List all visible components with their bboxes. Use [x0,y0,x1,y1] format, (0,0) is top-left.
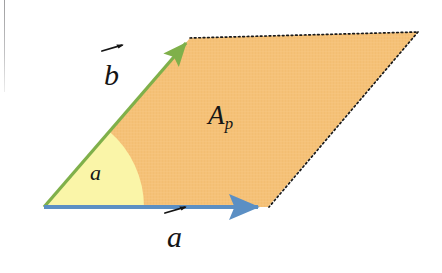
figure-canvas [0,0,442,273]
vector-a-letter: a [167,220,182,253]
vector-b-glyph-stack: b [104,60,119,90]
vector-parallelogram-figure: b a a Ap [0,0,442,273]
vector-b-label: b [104,60,119,90]
area-subscript: p [225,114,233,133]
area-letter: A [208,100,225,130]
area-label: Ap [208,102,233,129]
vector-a-label: a [167,222,182,252]
vector-b-letter: b [104,58,119,91]
vector-a-glyph-stack: a [167,222,182,252]
angle-label: a [90,162,101,184]
